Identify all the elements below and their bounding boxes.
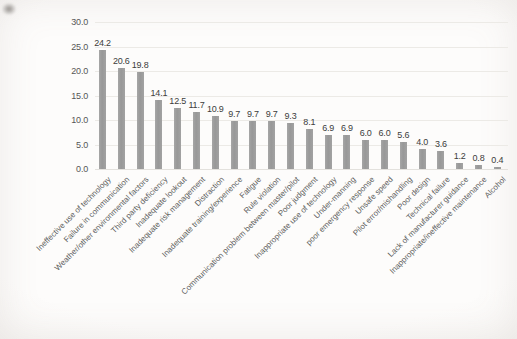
bar: [325, 135, 332, 169]
bar-value-label: 20.6: [113, 56, 130, 66]
bar-value-label: 6.0: [379, 128, 391, 138]
bar-value-label: 9.7: [228, 109, 240, 119]
bar: [343, 135, 350, 169]
bar: [475, 165, 482, 169]
bar: [193, 112, 200, 169]
bar-value-label: 10.9: [207, 104, 224, 114]
bar-value-label: 1.2: [454, 151, 466, 161]
bar-value-label: 6.9: [322, 123, 334, 133]
bar: [400, 142, 407, 169]
x-axis-line: [95, 169, 508, 170]
bar-value-label: 0.8: [473, 153, 485, 163]
y-axis-tick-label: 15.0: [54, 91, 88, 101]
bar-value-label: 19.8: [132, 60, 149, 70]
y-axis-tick-label: 25.0: [54, 42, 88, 52]
bar: [268, 121, 275, 169]
photo-smudge: [2, 3, 16, 15]
bar-value-label: 14.1: [151, 88, 168, 98]
bar: [249, 121, 256, 169]
bar: [381, 140, 388, 169]
bar-value-label: 3.6: [435, 139, 447, 149]
bar: [437, 151, 444, 169]
bar: [456, 163, 463, 169]
y-axis-tick-label: 10.0: [54, 115, 88, 125]
bar-chart-figure: 0.05.010.015.020.025.030.024.2Ineffectiv…: [0, 0, 517, 339]
bar-value-label: 9.7: [266, 109, 278, 119]
bar-value-label: 6.0: [360, 128, 372, 138]
gridline: [95, 47, 508, 48]
bar-value-label: 6.9: [341, 123, 353, 133]
bar-value-label: 8.1: [303, 117, 315, 127]
bar-value-label: 9.3: [285, 111, 297, 121]
y-axis-tick-label: 20.0: [54, 66, 88, 76]
bar: [306, 129, 313, 169]
y-axis-tick-label: 0.0: [54, 164, 88, 174]
bar-value-label: 9.7: [247, 109, 259, 119]
bar: [137, 72, 144, 169]
bar: [419, 149, 426, 169]
bar: [212, 116, 219, 169]
bar: [231, 121, 238, 169]
y-axis-tick-label: 30.0: [54, 17, 88, 27]
bar-value-label: 4.0: [416, 137, 428, 147]
y-axis-tick-label: 5.0: [54, 140, 88, 150]
bar: [155, 100, 162, 169]
bar: [174, 108, 181, 169]
bar-value-label: 5.6: [397, 130, 409, 140]
bar: [99, 50, 106, 169]
x-axis-category-label: Ineffective use of technology: [35, 175, 113, 253]
bar-value-label: 24.2: [94, 38, 111, 48]
bar-value-label: 0.4: [491, 155, 503, 165]
bar-value-label: 11.7: [188, 100, 204, 110]
bar: [287, 123, 294, 169]
gridline: [95, 22, 508, 23]
gridline: [95, 71, 508, 72]
bar-value-label: 12.5: [169, 96, 186, 106]
bar: [362, 140, 369, 169]
bar: [494, 167, 501, 169]
bar: [118, 68, 125, 169]
